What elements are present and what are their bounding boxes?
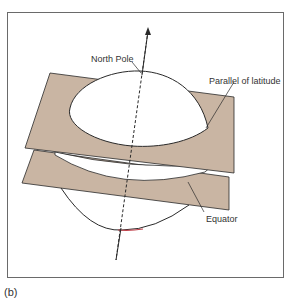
north-pole-label: North Pole xyxy=(91,54,134,64)
figure-caption: (b) xyxy=(4,286,17,298)
parallel-label: Parallel of latitude xyxy=(209,76,281,86)
sphere-diagram xyxy=(0,0,291,303)
axis-arrowhead xyxy=(145,27,151,35)
equator-label: Equator xyxy=(206,214,238,224)
